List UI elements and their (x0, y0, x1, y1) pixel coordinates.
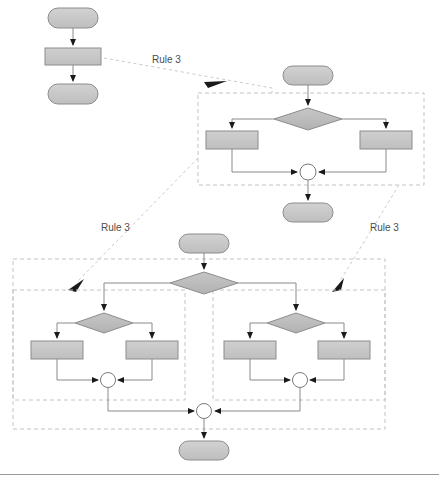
connector-line (319, 149, 386, 172)
merge-node[interactable] (197, 404, 212, 419)
process-node[interactable] (224, 341, 276, 359)
source-flowchart-group (45, 8, 101, 104)
rule-arrow-right (332, 185, 399, 292)
rule-label: Rule 3 (370, 222, 399, 233)
process-node[interactable] (360, 131, 412, 149)
merge-node[interactable] (101, 373, 116, 388)
connector-line (133, 323, 152, 338)
middle-flowchart-group (198, 66, 424, 222)
terminator-node[interactable] (48, 84, 98, 104)
process-node[interactable] (206, 131, 258, 149)
terminator-node[interactable] (48, 8, 98, 28)
connector-line (104, 283, 170, 310)
rule-arrow-left (68, 158, 198, 292)
connector-line (342, 119, 386, 128)
connector-line (250, 359, 290, 380)
connector-line (325, 323, 344, 338)
connector-line (310, 359, 344, 380)
terminator-node[interactable] (283, 66, 333, 85)
decision-node[interactable] (267, 313, 325, 333)
connector-line (250, 323, 267, 338)
connector-line (232, 149, 297, 172)
connector-line (232, 119, 274, 128)
terminator-node[interactable] (283, 203, 333, 222)
connector-line (57, 323, 75, 338)
process-node[interactable] (45, 48, 101, 65)
rule-label: Rule 3 (101, 222, 130, 233)
merge-node[interactable] (293, 373, 308, 388)
process-node[interactable] (318, 341, 370, 359)
bottom-flowchart-group (13, 234, 385, 460)
decision-node[interactable] (75, 313, 133, 333)
connector-line (118, 359, 152, 380)
merge-node[interactable] (300, 164, 316, 180)
process-node[interactable] (31, 341, 83, 359)
terminator-node[interactable] (179, 234, 229, 253)
terminator-node[interactable] (179, 441, 229, 460)
diagram-canvas: Rule 3 Rule 3 Rule 3 (0, 0, 439, 482)
decision-node[interactable] (274, 108, 342, 130)
flowchart-diagram: Rule 3 Rule 3 Rule 3 (0, 0, 439, 482)
process-node[interactable] (126, 341, 178, 359)
decision-node[interactable] (170, 272, 238, 294)
rule-label: Rule 3 (152, 54, 181, 65)
rule-arrow-top (104, 58, 272, 93)
connector-line (57, 359, 98, 380)
connector-line (238, 283, 296, 310)
